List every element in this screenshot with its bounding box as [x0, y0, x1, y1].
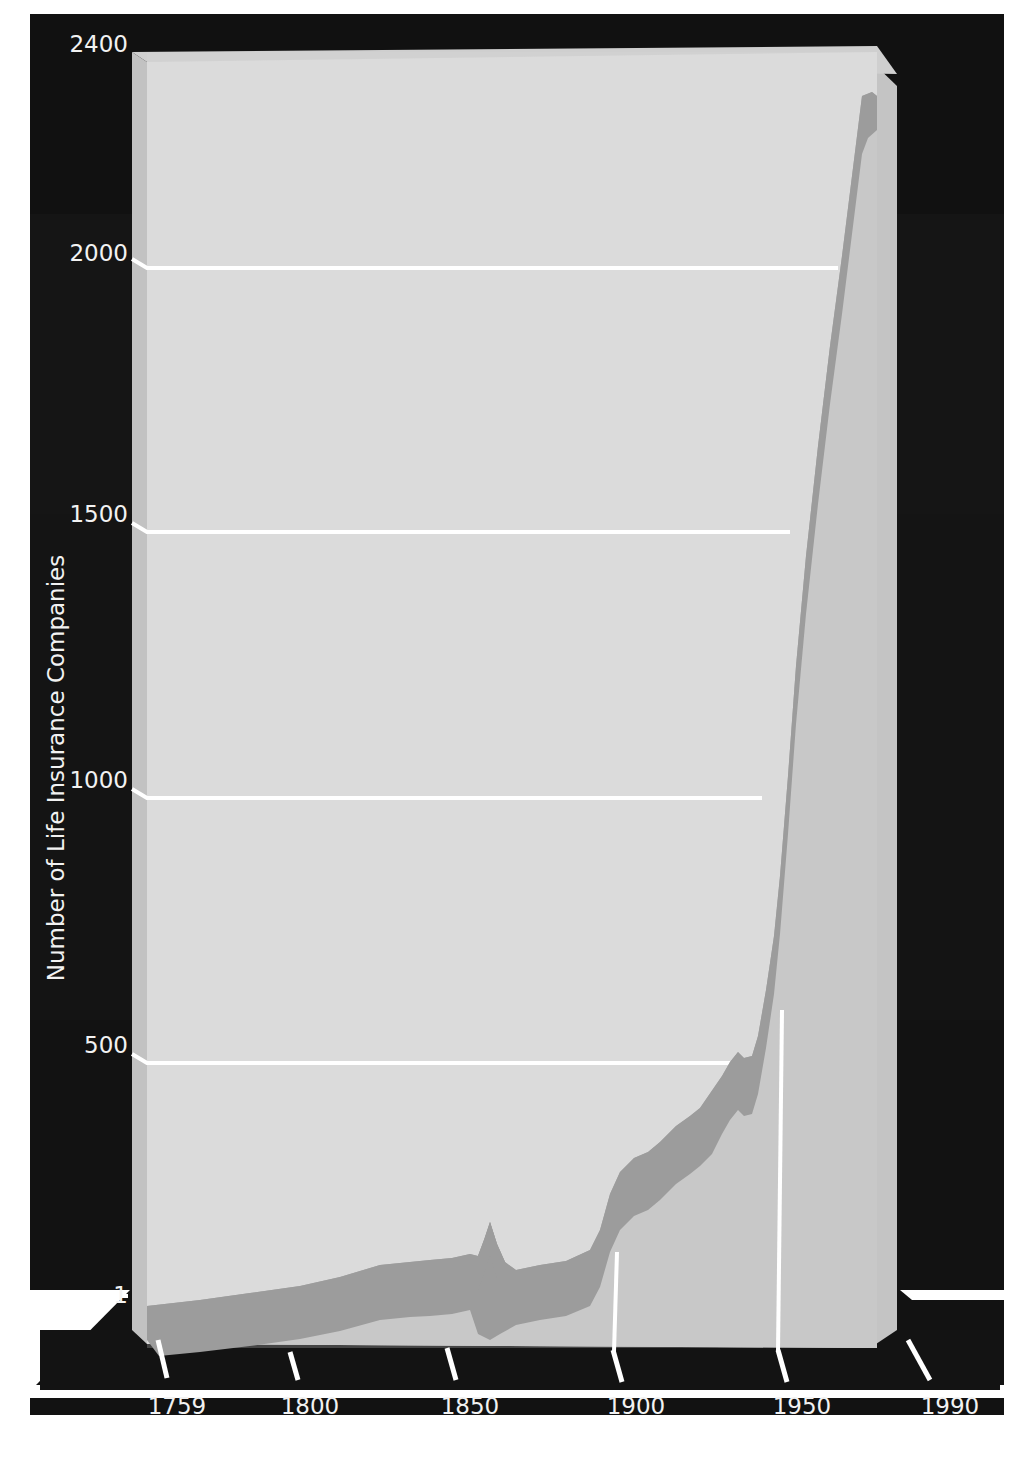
ytick-label-1000: 1000 [69, 767, 128, 793]
ytick-label-2000: 2000 [69, 240, 128, 266]
xtick-label-1800: 1800 [281, 1393, 340, 1419]
y-axis-title: Number of Life Insurance Companies [43, 555, 69, 981]
floor-right-bevel [900, 1290, 1004, 1300]
xtick-label-1990: 1990 [921, 1393, 980, 1419]
ytick-label-2400: 2400 [69, 31, 128, 57]
xtick-label-1850: 1850 [441, 1393, 500, 1419]
ytick-label-1: 1 [113, 1282, 128, 1308]
xtick-label-1950: 1950 [773, 1393, 832, 1419]
ytick-label-1500: 1500 [69, 501, 128, 527]
xtick-label-1900: 1900 [607, 1393, 666, 1419]
chart-canvas: 2400 2000 1500 1000 500 1 1759 1800 1850… [0, 0, 1022, 1462]
xtick-label-1759: 1759 [148, 1393, 207, 1419]
ytick-label-500: 500 [84, 1032, 128, 1058]
plot-left-face [132, 52, 147, 1344]
chart-figure: 2400 2000 1500 1000 500 1 1759 1800 1850… [0, 0, 1022, 1462]
